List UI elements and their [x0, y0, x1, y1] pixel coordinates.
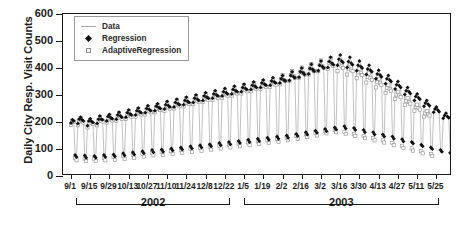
x-tick: [109, 174, 110, 179]
y-tick-label: 400: [0, 61, 53, 73]
x-tick: [436, 174, 437, 179]
legend-item: AdaptiveRegression: [80, 45, 181, 56]
x-tick: [340, 174, 341, 179]
x-tick: [90, 174, 91, 179]
y-tick: [56, 149, 63, 150]
x-tick: [417, 174, 418, 179]
x-tick-label: 5/25: [427, 181, 443, 191]
x-tick-label: 2/16: [293, 181, 309, 191]
legend-item: Regression: [80, 33, 181, 44]
x-tick-label: 3/30: [350, 181, 366, 191]
legend-marker-open-square-icon: [80, 46, 97, 55]
x-tick: [206, 174, 207, 179]
x-tick-label: 12/8: [196, 181, 212, 191]
x-tick-label: 1/19: [254, 181, 270, 191]
x-tick-label: 2/2: [276, 181, 288, 191]
year-bracket-label: 2002: [76, 196, 230, 208]
x-tick: [244, 174, 245, 179]
x-tick-label: 9/15: [81, 181, 97, 191]
x-tick: [283, 174, 284, 179]
x-tick-label: 3/2: [314, 181, 326, 191]
legend-marker-filled-diamond-icon: [80, 34, 97, 43]
year-bracket: 2003: [244, 198, 439, 214]
x-tick-label: 5/11: [408, 181, 424, 191]
legend-label: Regression: [102, 34, 147, 43]
x-tick-label: 10/27: [136, 181, 157, 191]
y-tick-label: 600: [0, 7, 53, 19]
x-tick-label: 3/16: [331, 181, 347, 191]
y-tick: [56, 122, 63, 123]
x-tick: [148, 174, 149, 179]
x-tick: [129, 174, 130, 179]
x-tick: [379, 174, 380, 179]
x-tick: [398, 174, 399, 179]
chart-figure: Daily City Resp. Visit Counts 0100200300…: [0, 0, 471, 227]
y-tick: [56, 14, 63, 15]
x-tick-label: 10/13: [117, 181, 138, 191]
x-tick: [186, 174, 187, 179]
x-tick-label: 9/1: [64, 181, 76, 191]
x-tick-label: 9/29: [100, 181, 116, 191]
legend-label: Data: [102, 22, 120, 31]
y-tick: [56, 41, 63, 42]
x-tick-label: 11/24: [175, 181, 196, 191]
chart-legend: DataRegressionAdaptiveRegression: [74, 16, 189, 61]
y-tick-label: 200: [0, 115, 53, 127]
y-tick-label: 100: [0, 142, 53, 154]
x-tick: [302, 174, 303, 179]
y-tick: [56, 68, 63, 69]
year-bracket: 2002: [76, 198, 230, 214]
year-bracket-label: 2003: [244, 196, 439, 208]
x-tick-label: 11/10: [156, 181, 177, 191]
x-tick: [167, 174, 168, 179]
y-tick-label: 0: [0, 169, 53, 181]
legend-label: AdaptiveRegression: [102, 46, 181, 55]
x-tick-label: 1/5: [237, 181, 249, 191]
x-tick: [359, 174, 360, 179]
x-tick-label: 12/22: [213, 181, 234, 191]
x-tick: [71, 174, 72, 179]
adaptive-regression-markers: [69, 57, 433, 163]
y-tick: [56, 95, 63, 96]
legend-marker-line-icon: [80, 22, 97, 31]
y-tick: [56, 176, 63, 177]
y-tick-label: 300: [0, 88, 53, 100]
x-tick-label: 4/13: [370, 181, 386, 191]
x-tick: [263, 174, 264, 179]
x-tick: [321, 174, 322, 179]
legend-item: Data: [80, 21, 181, 32]
y-tick-label: 500: [0, 34, 53, 46]
x-tick-label: 4/27: [389, 181, 405, 191]
x-tick: [225, 174, 226, 179]
